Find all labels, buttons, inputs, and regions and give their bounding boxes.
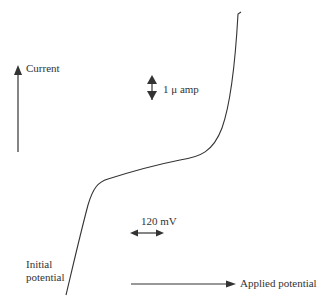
initial-potential-label-line2: potential <box>26 271 65 284</box>
diagram-canvas: Current 1 μ amp 120 mV Initial potential… <box>0 0 327 305</box>
wave-curve <box>66 12 241 295</box>
potential-scale-label: 120 mV <box>141 215 177 228</box>
current-scale-bar-icon <box>147 75 157 100</box>
potential-scale-bar-icon <box>130 230 164 237</box>
current-axis-arrow <box>14 65 22 152</box>
potential-axis-arrow <box>131 281 236 288</box>
initial-potential-label-line1: Initial <box>26 258 52 271</box>
x-axis-label: Applied potential <box>240 277 317 290</box>
current-scale-label: 1 μ amp <box>163 83 199 96</box>
y-axis-label: Current <box>26 62 60 75</box>
